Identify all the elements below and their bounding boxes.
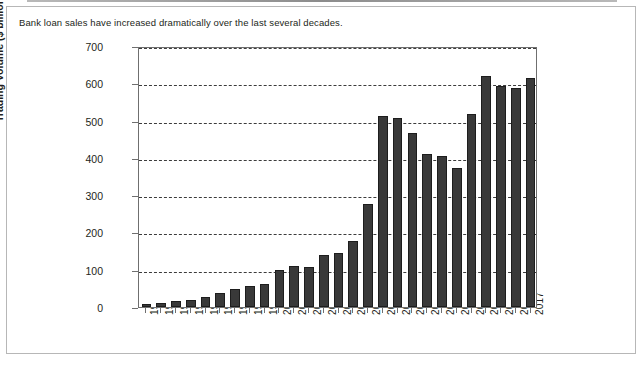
x-tick-mark-2007 bbox=[382, 308, 383, 313]
x-tick-mark-1995 bbox=[205, 308, 206, 313]
y-axis-title: Trading Volume ($ billions) bbox=[0, 0, 5, 122]
bar-2009 bbox=[408, 133, 418, 307]
x-tick-mark-1991 bbox=[145, 308, 146, 313]
x-tick-mark-2004 bbox=[338, 308, 339, 313]
x-tick-mark-1999 bbox=[264, 308, 265, 313]
x-tick-mark-2014 bbox=[485, 308, 486, 313]
x-tick-mark-1993 bbox=[175, 308, 176, 313]
bar-2000 bbox=[275, 270, 285, 307]
gridline-400 bbox=[139, 160, 536, 161]
x-tick-mark-1992 bbox=[160, 308, 161, 313]
x-tick-mark-2013 bbox=[471, 308, 472, 313]
x-tick-mark-2008 bbox=[397, 308, 398, 313]
x-tick-mark-2000 bbox=[278, 308, 279, 313]
y-tick-label-400: 400 bbox=[63, 153, 103, 165]
y-tick-label-100: 100 bbox=[63, 265, 103, 277]
gridline-600 bbox=[139, 85, 536, 86]
bar-2013 bbox=[467, 114, 477, 307]
y-tick-mark-0 bbox=[132, 308, 138, 309]
bar-2011 bbox=[437, 156, 447, 307]
bar-2001 bbox=[289, 266, 299, 307]
bar-1997 bbox=[230, 289, 240, 307]
x-tick-mark-2002 bbox=[308, 308, 309, 313]
bar-2017 bbox=[526, 78, 536, 307]
x-tick-mark-1997 bbox=[234, 308, 235, 313]
x-tick-mark-2006 bbox=[367, 308, 368, 313]
bar-1993 bbox=[171, 301, 181, 307]
title-divider-rule bbox=[27, 0, 617, 2]
bar-2003 bbox=[319, 255, 329, 307]
bar-chart: Trading Volume ($ billions) 010020030040… bbox=[7, 7, 637, 355]
bar-1991 bbox=[142, 304, 152, 307]
y-tick-label-600: 600 bbox=[63, 78, 103, 90]
y-tick-label-500: 500 bbox=[63, 116, 103, 128]
x-tick-mark-1994 bbox=[190, 308, 191, 313]
gridline-500 bbox=[139, 123, 536, 124]
bar-2008 bbox=[393, 118, 403, 307]
bar-2012 bbox=[452, 168, 462, 307]
x-tick-mark-2005 bbox=[352, 308, 353, 313]
x-tick-mark-2001 bbox=[293, 308, 294, 313]
x-tick-mark-2016 bbox=[515, 308, 516, 313]
plot-area bbox=[138, 47, 537, 308]
bar-2016 bbox=[511, 88, 521, 307]
x-tick-mark-2003 bbox=[323, 308, 324, 313]
y-tick-label-300: 300 bbox=[63, 190, 103, 202]
bar-1995 bbox=[201, 297, 211, 307]
bar-2007 bbox=[378, 116, 388, 307]
x-tick-mark-2012 bbox=[456, 308, 457, 313]
x-tick-mark-2017 bbox=[530, 308, 531, 313]
gridline-300 bbox=[139, 197, 536, 198]
y-tick-label-700: 700 bbox=[63, 41, 103, 53]
bar-1992 bbox=[156, 303, 166, 307]
x-tick-mark-1998 bbox=[249, 308, 250, 313]
bar-1996 bbox=[215, 293, 225, 307]
figure-card: Bank loan sales have increased dramatica… bbox=[6, 6, 636, 354]
bar-1998 bbox=[245, 286, 255, 307]
bar-2006 bbox=[363, 204, 373, 307]
x-tick-mark-2015 bbox=[500, 308, 501, 313]
bar-1999 bbox=[260, 284, 270, 307]
bar-2002 bbox=[304, 267, 314, 307]
bar-2005 bbox=[348, 241, 358, 307]
bar-2015 bbox=[496, 86, 506, 307]
bar-2010 bbox=[422, 154, 432, 307]
y-tick-label-0: 0 bbox=[63, 302, 103, 314]
gridline-700 bbox=[139, 48, 536, 49]
y-tick-label-200: 200 bbox=[63, 227, 103, 239]
bar-2004 bbox=[334, 253, 344, 307]
gridline-200 bbox=[139, 234, 536, 235]
bar-2014 bbox=[481, 76, 491, 307]
x-tick-mark-2009 bbox=[411, 308, 412, 313]
bar-1994 bbox=[186, 300, 196, 307]
figure-page: Bank loan sales have increased dramatica… bbox=[0, 0, 644, 367]
x-tick-mark-2010 bbox=[426, 308, 427, 313]
x-tick-mark-2011 bbox=[441, 308, 442, 313]
x-tick-mark-1996 bbox=[219, 308, 220, 313]
